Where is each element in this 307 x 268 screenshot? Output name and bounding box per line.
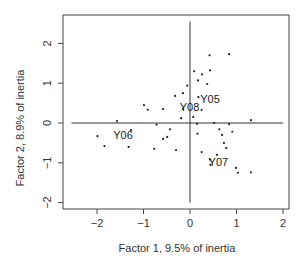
data-point bbox=[162, 108, 164, 110]
data-point bbox=[103, 145, 105, 147]
data-point bbox=[201, 109, 203, 111]
plot-frame bbox=[63, 15, 289, 209]
x-tick-label: 0 bbox=[187, 217, 193, 229]
data-point bbox=[153, 148, 155, 150]
point-label-y07: Y07 bbox=[209, 156, 229, 168]
point-label-y05: Y05 bbox=[200, 93, 220, 105]
point-label-y06: Y06 bbox=[113, 129, 133, 141]
x-tick-label: 2 bbox=[280, 217, 286, 229]
reference-lines bbox=[71, 22, 283, 203]
data-point bbox=[143, 104, 145, 106]
data-point bbox=[166, 136, 168, 138]
y-tick-label: −1 bbox=[41, 157, 53, 170]
data-point bbox=[225, 147, 227, 149]
point-label-y08: Y08 bbox=[180, 101, 200, 113]
data-points bbox=[96, 53, 252, 174]
data-point bbox=[206, 83, 208, 85]
y-axis-title: Factor 2, 8.9% of inertia bbox=[14, 69, 26, 187]
x-axis-title: Factor 1, 9.5% of inertia bbox=[119, 242, 237, 254]
data-point bbox=[193, 70, 195, 72]
data-point bbox=[197, 96, 199, 98]
x-tick-label: 1 bbox=[233, 217, 239, 229]
y-tick-label: 0 bbox=[41, 120, 53, 126]
point-labels: Y05Y08Y06Y07 bbox=[113, 93, 228, 167]
data-point bbox=[196, 123, 198, 125]
data-point bbox=[197, 79, 199, 81]
data-point bbox=[237, 172, 239, 174]
data-point bbox=[162, 138, 164, 140]
data-point bbox=[250, 119, 252, 121]
data-point bbox=[96, 135, 98, 137]
data-point bbox=[155, 123, 157, 125]
x-tick-label: −2 bbox=[91, 217, 104, 229]
x-tick-label: −1 bbox=[137, 217, 150, 229]
data-point bbox=[201, 73, 203, 75]
data-point bbox=[175, 149, 177, 151]
data-point bbox=[180, 117, 182, 119]
data-point bbox=[192, 116, 194, 118]
data-point bbox=[186, 84, 188, 86]
data-point bbox=[201, 151, 203, 153]
y-tick-label: 1 bbox=[41, 80, 53, 86]
data-point bbox=[182, 92, 184, 94]
data-point bbox=[128, 146, 130, 148]
x-axis: −2−1012 bbox=[91, 209, 286, 229]
data-point bbox=[169, 128, 171, 130]
scatter-chart: −2−1012 −2−1012 Y05Y08Y06Y07 Factor 1, 9… bbox=[0, 0, 307, 268]
data-point bbox=[209, 69, 211, 71]
data-point bbox=[196, 133, 198, 135]
data-point bbox=[228, 53, 230, 55]
data-point bbox=[235, 167, 237, 169]
data-point bbox=[250, 171, 252, 173]
data-point bbox=[228, 123, 230, 125]
data-point bbox=[231, 131, 233, 133]
y-tick-label: −2 bbox=[41, 196, 53, 209]
data-point bbox=[147, 109, 149, 111]
y-tick-label: 2 bbox=[41, 40, 53, 46]
data-point bbox=[174, 95, 176, 97]
data-point bbox=[218, 128, 220, 130]
data-point bbox=[221, 134, 223, 136]
y-axis: −2−1012 bbox=[41, 40, 63, 209]
data-point bbox=[223, 142, 225, 144]
data-point bbox=[116, 120, 118, 122]
data-point bbox=[208, 54, 210, 56]
data-point bbox=[213, 122, 215, 124]
